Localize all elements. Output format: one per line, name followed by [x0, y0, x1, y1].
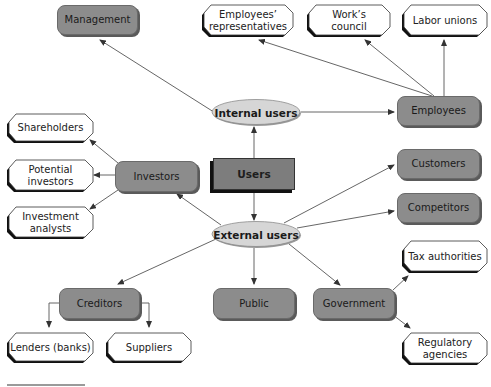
management-node: Management [57, 5, 138, 35]
works-council-label-line1: Work’s [332, 9, 366, 20]
creditors-node: Creditors [59, 288, 140, 319]
shareholders-node: Shareholders [8, 114, 93, 142]
lenders-label: Lenders (banks) [10, 342, 91, 354]
customers-label: Customers [412, 158, 466, 170]
lenders-node: Lenders (banks) [8, 333, 93, 362]
potential-investors-label-line2: investors [28, 176, 74, 187]
internal-users-label: Internal users [215, 107, 298, 119]
investment-analysts-node: Investmentanalysts [8, 207, 93, 238]
employees-representatives-label-line1: Employees’ [219, 9, 277, 20]
tax-authorities-label: Tax authorities [408, 251, 481, 263]
employees-representatives-label-line2: representatives [209, 21, 287, 32]
employees-representatives-node: Employees’representatives [203, 5, 293, 36]
investors-node: Investors [115, 161, 198, 192]
shareholders-label: Shareholders [18, 122, 84, 134]
investors-label: Investors [134, 171, 180, 183]
footer-rule [7, 384, 85, 386]
employees-node: Employees [397, 96, 480, 126]
potential-investors-node: Potentialinvestors [8, 160, 93, 191]
customers-node: Customers [397, 149, 480, 179]
regulatory-agencies-node: Regulatoryagencies [403, 333, 487, 364]
users-node: Users [213, 158, 295, 190]
management-label: Management [65, 14, 131, 26]
internal-users-node: Internal users [211, 99, 301, 126]
labor-unions-node: Labor unions [403, 5, 487, 36]
competitors-label: Competitors [408, 202, 469, 214]
suppliers-label: Suppliers [126, 342, 172, 354]
creditors-label: Creditors [77, 298, 123, 310]
regulatory-agencies-label-line2: agencies [423, 349, 468, 360]
competitors-node: Competitors [397, 193, 480, 223]
public-label: Public [239, 298, 269, 310]
suppliers-node: Suppliers [107, 333, 191, 362]
potential-investors-label-line1: Potential [29, 164, 73, 175]
government-node: Government [313, 288, 395, 319]
external-users-node: External users [211, 221, 301, 248]
users-diagram: Users Internal users External users Mana… [0, 0, 491, 387]
employees-label: Employees [411, 105, 466, 117]
works-council-label-line2: council [331, 21, 366, 32]
tax-authorities-node: Tax authorities [403, 241, 487, 272]
external-users-label: External users [213, 229, 298, 241]
investment-analysts-label-line2: analysts [30, 223, 72, 234]
regulatory-agencies-label-line1: Regulatory [418, 337, 472, 348]
users-label: Users [237, 168, 270, 180]
public-node: Public [213, 288, 295, 319]
works-council-node: Work’scouncil [308, 5, 390, 36]
labor-unions-label: Labor unions [413, 15, 478, 27]
government-label: Government [323, 298, 385, 310]
investment-analysts-label-line1: Investment [22, 211, 79, 222]
